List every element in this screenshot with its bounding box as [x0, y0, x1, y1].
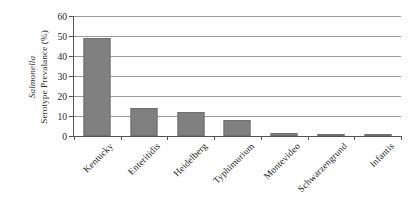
y-tick-label: 20: [57, 91, 67, 102]
y-tick-label: 10: [57, 111, 67, 122]
bar-slot: [261, 16, 308, 136]
y-axis-title: Salmonella Serotype Prevalance (%): [14, 16, 52, 140]
x-tick-mark: [121, 136, 122, 140]
bar-series: [74, 16, 401, 136]
x-axis-label: Kentucky: [82, 141, 116, 175]
x-tick-mark: [401, 136, 402, 140]
y-tick-label: 30: [57, 71, 67, 82]
x-tick-mark: [214, 136, 215, 140]
bar: [131, 108, 158, 136]
x-axis-label: Schwarzengrund: [296, 141, 349, 194]
y-tick-label: 50: [57, 31, 67, 42]
x-axis-label: Infantis: [368, 141, 396, 169]
x-tick-mark: [167, 136, 168, 140]
x-axis-label: Typhimurium: [211, 141, 256, 186]
bar-chart-figure: Salmonella Serotype Prevalance (%) 60504…: [0, 0, 420, 216]
bar: [177, 112, 204, 136]
x-axis-line: [73, 136, 401, 137]
y-tick-mark: [69, 76, 73, 77]
bar: [224, 120, 251, 136]
bar: [271, 133, 298, 136]
x-axis-category-labels: KentuckyEnteritidisHeidelbergTyphimurium…: [73, 141, 401, 211]
x-tick-mark: [308, 136, 309, 140]
y-tick-mark: [69, 16, 73, 17]
bar-slot: [121, 16, 168, 136]
bar: [84, 38, 111, 136]
bar-slot: [74, 16, 121, 136]
y-tick-label: 40: [57, 51, 67, 62]
x-tick-mark: [261, 136, 262, 140]
y-axis-title-line-1: Salmonella: [27, 15, 37, 139]
bar-slot: [354, 16, 401, 136]
y-tick-mark: [69, 116, 73, 117]
x-axis-label: Montevideo: [262, 141, 302, 181]
bar: [364, 134, 391, 136]
y-tick-mark: [69, 36, 73, 37]
bar-slot: [167, 16, 214, 136]
y-axis-title-line-2: Serotype Prevalance (%): [39, 15, 49, 139]
y-tick-mark: [69, 56, 73, 57]
y-tick-mark: [69, 136, 73, 137]
bar: [317, 134, 344, 136]
bar-slot: [308, 16, 355, 136]
x-tick-mark: [74, 136, 75, 140]
y-tick-label: 60: [57, 11, 67, 22]
x-axis-label: Heidelberg: [171, 141, 208, 178]
bar-slot: [214, 16, 261, 136]
x-axis-label: Enteritidis: [126, 141, 162, 177]
y-tick-label: 0: [62, 131, 67, 142]
plot-area: 6050403020100: [73, 16, 401, 137]
y-tick-mark: [69, 96, 73, 97]
x-tick-mark: [354, 136, 355, 140]
